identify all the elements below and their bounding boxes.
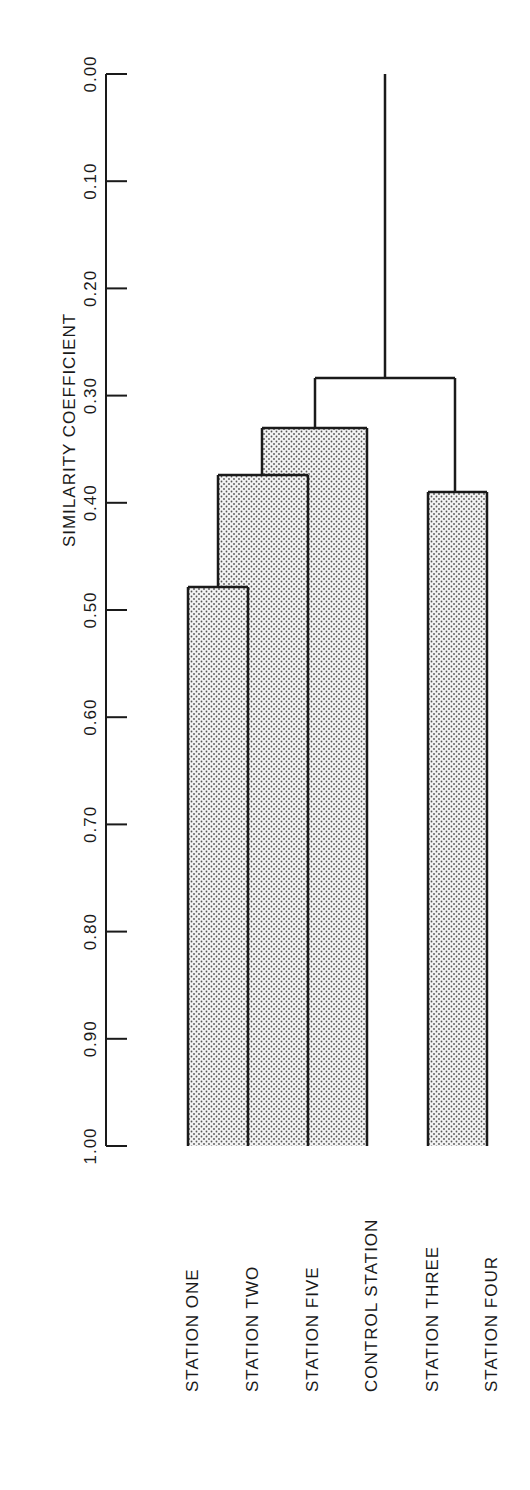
leaf-label: STATION TWO: [243, 1266, 262, 1392]
axis-title: SIMILARITY COEFFICIENT: [60, 313, 79, 547]
y-tick-label: 1.00: [81, 1127, 100, 1164]
y-tick-label: 0.10: [81, 163, 100, 200]
leaf-label: STATION FOUR: [482, 1256, 501, 1392]
leaf-label: STATION FIVE: [303, 1266, 322, 1392]
y-tick-label: 0.90: [81, 1020, 100, 1057]
y-tick-label: 0.60: [81, 699, 100, 736]
y-tick-label: 0.50: [81, 591, 100, 628]
y-tick-label: 0.40: [81, 484, 100, 521]
y-tick-label: 0.70: [81, 806, 100, 843]
leaf-label: STATION ONE: [183, 1268, 202, 1392]
cluster-fill-with-control: [262, 428, 367, 1146]
leaf-label: STATION THREE: [423, 1246, 442, 1392]
cluster-fill-three-four: [428, 492, 487, 1146]
y-axis-tick-labels: 0.000.100.200.300.400.500.600.700.800.90…: [81, 55, 100, 1164]
dendrogram-chart: 0.000.100.200.300.400.500.600.700.800.90…: [0, 0, 530, 1490]
y-tick-label: 0.20: [81, 270, 100, 307]
y-tick-label: 0.30: [81, 377, 100, 414]
cluster-fill-one-two-top: [188, 587, 248, 1146]
y-tick-label: 0.00: [81, 55, 100, 92]
y-tick-label: 0.80: [81, 913, 100, 950]
leaf-labels: STATION ONESTATION TWOSTATION FIVECONTRO…: [183, 1219, 501, 1392]
leaf-label: CONTROL STATION: [362, 1219, 381, 1392]
y-axis-ticks: [106, 74, 127, 1146]
